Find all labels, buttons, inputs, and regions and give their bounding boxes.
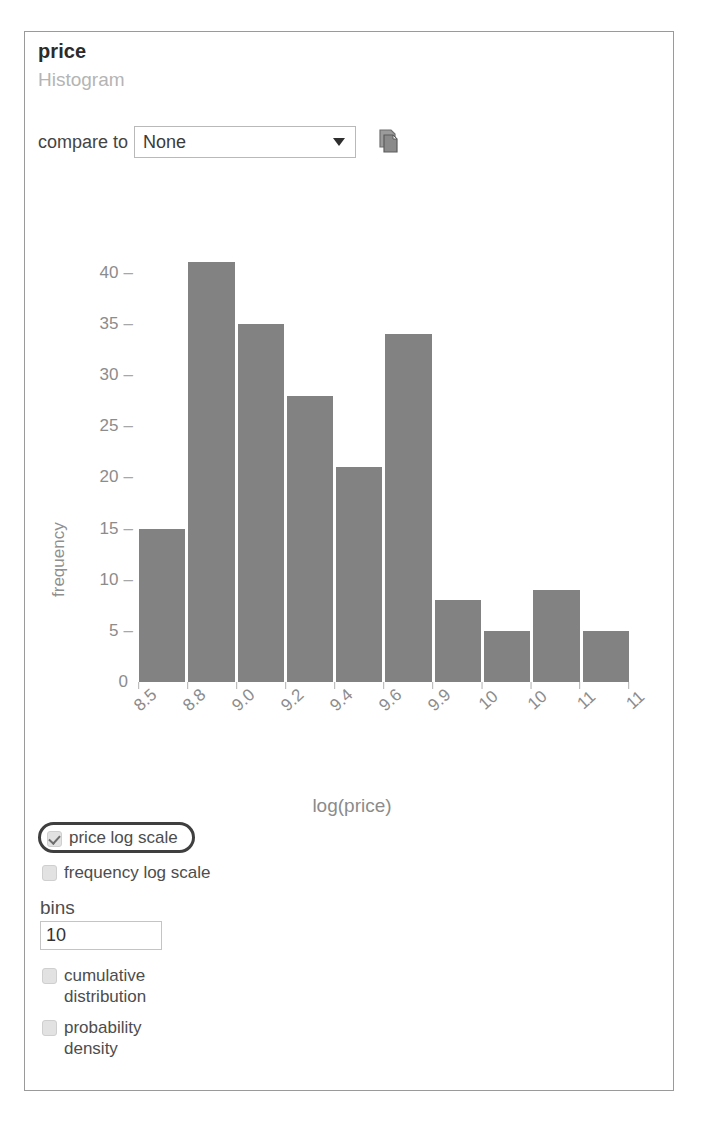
y-axis-tick: 30– bbox=[100, 365, 133, 385]
price-log-scale-row[interactable]: price log scale bbox=[38, 822, 195, 853]
cumulative-distribution-label: cumulative distribution bbox=[64, 965, 184, 1008]
x-axis-tick: 9.6 bbox=[372, 682, 396, 713]
plot-area bbox=[139, 242, 629, 682]
y-axis-tick: 25– bbox=[100, 416, 133, 436]
x-axis-tick: 9.2 bbox=[274, 682, 298, 713]
y-axis-tick: 35– bbox=[100, 314, 133, 334]
bar bbox=[583, 631, 629, 682]
x-axis-tick: 10 bbox=[473, 682, 492, 713]
compare-to-select[interactable]: None bbox=[134, 126, 356, 158]
x-axis-tick: 11 bbox=[571, 682, 589, 713]
price-log-scale-label: price log scale bbox=[69, 827, 178, 848]
compare-to-selected-value: None bbox=[135, 132, 186, 153]
bar bbox=[484, 631, 530, 682]
copy-icon[interactable] bbox=[378, 129, 400, 155]
x-axis-tick: 10 bbox=[522, 682, 541, 713]
y-axis-ticks: 40–35–30–25–20–15–10–5–0 bbox=[71, 242, 133, 682]
bins-label: bins bbox=[40, 897, 338, 919]
bar bbox=[188, 262, 234, 682]
y-axis-tick: 15– bbox=[100, 519, 133, 539]
frequency-log-scale-checkbox[interactable] bbox=[42, 865, 57, 881]
x-axis-tick: 8.8 bbox=[176, 682, 200, 713]
x-axis-ticks: 8.58.89.09.29.49.69.910101111 bbox=[139, 682, 629, 772]
price-log-scale-checkbox[interactable] bbox=[47, 831, 62, 847]
y-axis-tick: 5– bbox=[109, 621, 133, 641]
frequency-log-scale-row[interactable]: frequency log scale bbox=[38, 859, 338, 886]
bins-input[interactable]: 10 bbox=[40, 921, 162, 950]
x-axis-tick: 9.0 bbox=[225, 682, 249, 713]
bar-series bbox=[139, 242, 629, 682]
bar bbox=[435, 600, 481, 682]
chevron-down-icon bbox=[333, 138, 345, 146]
x-axis-tick: 9.9 bbox=[421, 682, 445, 713]
y-axis-label: frequency bbox=[49, 522, 69, 597]
probability-density-row[interactable]: probability density bbox=[38, 1014, 338, 1063]
bar bbox=[238, 324, 284, 682]
x-axis-tick: 11 bbox=[620, 682, 638, 713]
histogram-panel: price Histogram compare to None frequenc… bbox=[24, 31, 674, 1091]
probability-density-label: probability density bbox=[64, 1017, 174, 1060]
chart-type-subtitle: Histogram bbox=[38, 69, 125, 91]
bar bbox=[139, 529, 185, 682]
bar bbox=[533, 590, 579, 682]
frequency-log-scale-label: frequency log scale bbox=[64, 862, 210, 883]
probability-density-checkbox[interactable] bbox=[42, 1020, 57, 1036]
bar bbox=[385, 334, 431, 682]
histogram-chart: frequency 40–35–30–25–20–15–10–5–0 8.58.… bbox=[25, 207, 673, 827]
y-axis-tick: 40– bbox=[100, 263, 133, 283]
x-axis-tick: 8.5 bbox=[127, 682, 151, 713]
page-title: price bbox=[38, 40, 86, 63]
y-axis-tick: 20– bbox=[100, 467, 133, 487]
compare-to-label: compare to bbox=[38, 132, 128, 153]
x-axis-tick: 9.4 bbox=[323, 682, 347, 713]
compare-to-row: compare to None bbox=[38, 126, 400, 158]
bar bbox=[287, 396, 333, 683]
y-axis-tick: 10– bbox=[100, 570, 133, 590]
chart-controls: price log scale frequency log scale bins… bbox=[38, 822, 338, 1067]
x-axis-label: log(price) bbox=[28, 795, 676, 817]
cumulative-distribution-row[interactable]: cumulative distribution bbox=[38, 962, 338, 1011]
cumulative-distribution-checkbox[interactable] bbox=[42, 968, 57, 984]
bar bbox=[336, 467, 382, 682]
